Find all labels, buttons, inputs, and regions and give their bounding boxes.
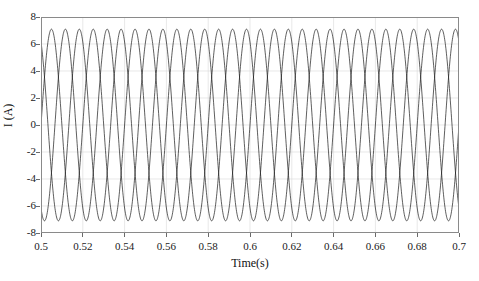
x-tick-mark — [459, 233, 460, 237]
x-tick-mark — [375, 233, 376, 237]
y-tick-mark — [36, 179, 40, 180]
x-tick-label: 0.68 — [408, 241, 427, 252]
x-tick-label: 0.6 — [243, 241, 257, 252]
x-tick-mark — [208, 233, 209, 237]
x-tick-label: 0.58 — [199, 241, 218, 252]
x-tick-mark — [41, 233, 42, 237]
x-tick-mark — [82, 233, 83, 237]
x-tick-label: 0.66 — [366, 241, 385, 252]
chart-figure: -8-6-4-202468 0.50.520.540.560.580.60.62… — [0, 0, 479, 281]
x-axis-label: Time(s) — [41, 256, 459, 271]
x-tick-mark — [124, 233, 125, 237]
y-tick-mark — [36, 206, 40, 207]
y-tick-label: -2 — [27, 146, 36, 157]
x-tick-label: 0.56 — [157, 241, 176, 252]
x-tick-mark — [166, 233, 167, 237]
x-tick-label: 0.62 — [282, 241, 301, 252]
x-tick-mark — [417, 233, 418, 237]
x-tick-mark — [291, 233, 292, 237]
x-tick-mark — [250, 233, 251, 237]
plot-area — [41, 17, 459, 233]
y-tick-mark — [36, 125, 40, 126]
x-tick-label: 0.64 — [324, 241, 343, 252]
y-tick-mark — [36, 152, 40, 153]
y-axis-label: I (A) — [1, 86, 16, 146]
y-tick-mark — [36, 98, 40, 99]
plot-frame — [41, 17, 459, 233]
y-tick-mark — [36, 71, 40, 72]
y-tick-label: -4 — [27, 173, 36, 184]
x-tick-label: 0.7 — [452, 241, 466, 252]
y-tick-mark — [36, 44, 40, 45]
y-tick-mark — [36, 233, 40, 234]
x-tick-mark — [333, 233, 334, 237]
x-tick-label: 0.5 — [34, 241, 48, 252]
x-tick-label: 0.52 — [73, 241, 92, 252]
y-tick-label: -6 — [27, 200, 36, 211]
y-tick-label: -8 — [27, 227, 36, 238]
x-tick-label: 0.54 — [115, 241, 134, 252]
y-tick-mark — [36, 17, 40, 18]
x-axis-tick-labels: 0.50.520.540.560.580.60.620.640.660.680.… — [41, 237, 459, 253]
